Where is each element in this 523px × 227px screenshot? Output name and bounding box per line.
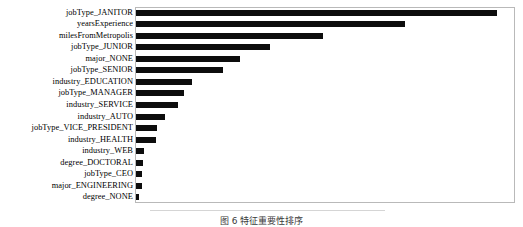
bar-track (136, 111, 515, 123)
bar-track (136, 65, 515, 77)
bar-track (136, 19, 515, 31)
axis-tick-label: milesFromMetropolis (0, 31, 133, 41)
axis-tick-label: industry_SERVICE (0, 100, 133, 110)
bar-track (136, 53, 515, 65)
figure-container: jobType_JANITOR yearsExperience milesFro… (0, 0, 523, 227)
axis-tick-label: jobType_VICE_PRESIDENT (0, 123, 133, 133)
bar-segment (136, 44, 270, 50)
axis-tick-label: industry_WEB (0, 146, 133, 156)
table-row: degree_NONE (0, 191, 523, 203)
axis-tick-label: jobType_JANITOR (0, 8, 133, 18)
bar-segment (136, 148, 144, 154)
table-row: industry_EDUCATION (0, 76, 523, 88)
bar-segment (136, 67, 223, 73)
bar-segment (136, 90, 184, 96)
bar-segment (136, 21, 405, 27)
bar-track (136, 145, 515, 157)
bar-track (136, 122, 515, 134)
bar-track (136, 99, 515, 111)
table-row: jobType_SENIOR (0, 65, 523, 77)
bar-track (136, 157, 515, 169)
axis-tick-label: industry_EDUCATION (0, 77, 133, 87)
table-row: milesFromMetropolis (0, 30, 523, 42)
axis-tick-label: jobType_MANAGER (0, 88, 133, 98)
bar-segment (136, 10, 497, 16)
bar-track (136, 191, 515, 203)
axis-tick-label: degree_DOCTORAL (0, 158, 133, 168)
table-row: major_NONE (0, 53, 523, 65)
table-row: industry_SERVICE (0, 99, 523, 111)
table-row: jobType_JUNIOR (0, 42, 523, 54)
axis-tick-label: jobType_SENIOR (0, 65, 133, 75)
bar-rows: jobType_JANITOR yearsExperience milesFro… (0, 7, 523, 203)
table-row: jobType_MANAGER (0, 88, 523, 100)
bar-track (136, 88, 515, 100)
bar-track (136, 180, 515, 192)
table-row: yearsExperience (0, 19, 523, 31)
table-row: industry_WEB (0, 145, 523, 157)
table-row: industry_AUTO (0, 111, 523, 123)
caption-divider (150, 210, 385, 211)
table-row: degree_DOCTORAL (0, 157, 523, 169)
bar-segment (136, 102, 178, 108)
axis-tick-label: major_NONE (0, 54, 133, 64)
axis-tick-label: major_ENGINEERING (0, 181, 133, 191)
bar-segment (136, 33, 323, 39)
bar-segment (136, 56, 240, 62)
bar-segment (136, 160, 143, 166)
axis-tick-label: jobType_CEO (0, 169, 133, 179)
chart-area: jobType_JANITOR yearsExperience milesFro… (0, 0, 523, 210)
bar-segment (136, 171, 142, 177)
figure-caption-band: 图 6 特征重要性排序 (0, 210, 523, 227)
table-row: major_ENGINEERING (0, 180, 523, 192)
table-row: jobType_JANITOR (0, 7, 523, 19)
axis-tick-label: industry_HEALTH (0, 135, 133, 145)
axis-tick-label: industry_AUTO (0, 112, 133, 122)
axis-tick-label: yearsExperience (0, 19, 133, 29)
table-row: jobType_VICE_PRESIDENT (0, 122, 523, 134)
bar-track (136, 7, 515, 19)
table-row: jobType_CEO (0, 168, 523, 180)
bar-segment (136, 114, 165, 120)
bar-segment (136, 194, 139, 200)
table-row: industry_HEALTH (0, 134, 523, 146)
bar-track (136, 42, 515, 54)
bar-segment (136, 183, 142, 189)
bar-segment (136, 137, 156, 143)
bar-segment (136, 79, 192, 85)
bar-track (136, 168, 515, 180)
bar-track (136, 134, 515, 146)
figure-caption: 图 6 特征重要性排序 (0, 215, 523, 227)
bar-track (136, 76, 515, 88)
axis-tick-label: jobType_JUNIOR (0, 42, 133, 52)
axis-tick-label: degree_NONE (0, 192, 133, 202)
bar-segment (136, 125, 157, 131)
bar-track (136, 30, 515, 42)
